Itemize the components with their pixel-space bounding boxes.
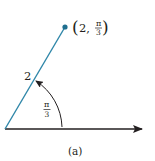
point-theta-numerator: π — [96, 19, 101, 28]
radius-ray — [5, 27, 65, 129]
figure-caption: (a) — [68, 145, 82, 157]
open-paren: ( — [72, 17, 79, 37]
point-theta-denominator: 3 — [96, 28, 101, 37]
angle-numerator: π — [44, 100, 49, 109]
close-paren: ) — [102, 17, 109, 37]
angle-denominator: 3 — [45, 110, 50, 119]
polar-point — [62, 24, 67, 29]
point-r-value: 2, — [79, 21, 90, 35]
point-label: ( 2, π 3 ) — [72, 17, 109, 37]
radius-label: 2 — [24, 69, 31, 83]
angle-label: π 3 — [44, 100, 51, 119]
polar-diagram: ( 2, π 3 ) 2 π 3 (a) — [0, 0, 155, 161]
